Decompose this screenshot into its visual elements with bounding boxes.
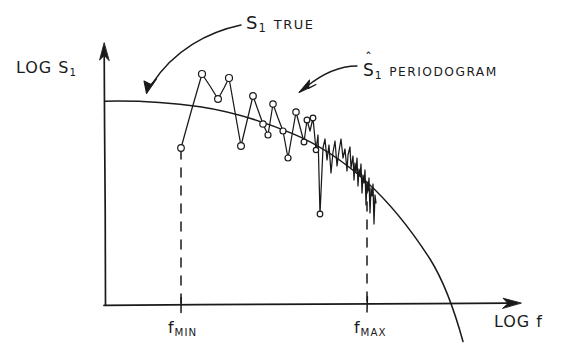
- tick-label-f-min-symbol: f: [168, 318, 175, 337]
- periodogram-marker: [199, 71, 206, 78]
- periodogram-marker: [178, 145, 185, 152]
- periodogram-marker: [238, 143, 245, 150]
- periodogram-marker: [285, 155, 291, 161]
- periodogram-annotation: ˆS1 PERIODOGRAM: [363, 60, 498, 82]
- periodogram-series: [178, 71, 376, 225]
- y-axis-label: LOG S1: [16, 58, 77, 78]
- periodogram-subscript: 1: [375, 69, 383, 82]
- true-spectrum-symbol: S: [246, 12, 259, 33]
- hand-drawn-chart-canvas: [0, 0, 574, 362]
- periodogram-marker: [215, 96, 222, 103]
- periodogram-markers: [178, 71, 323, 217]
- periodogram-marker: [226, 75, 233, 82]
- periodogram-marker: [310, 115, 316, 121]
- true-spectrum-subscript: 1: [259, 21, 267, 35]
- x-axis-label-main: LOG: [494, 312, 536, 331]
- periodogram-marker: [250, 93, 257, 100]
- y-axis-line: [104, 52, 105, 305]
- reference-lines-group: [181, 150, 367, 304]
- periodogram-marker: [265, 132, 271, 138]
- periodogram-arrow: [299, 66, 357, 93]
- tick-label-f-max-subscript: MAX: [361, 326, 387, 338]
- tick-label-f-max: fMAX: [354, 318, 387, 338]
- periodogram-marker: [270, 101, 276, 107]
- periodogram-polyline: [181, 74, 376, 224]
- periodogram-marker: [293, 109, 299, 115]
- periodogram-marker: [304, 117, 310, 123]
- periodogram-marker: [317, 211, 323, 217]
- tick-label-f-min-subscript: MIN: [175, 326, 198, 338]
- tick-label-f-min: fMIN: [168, 318, 197, 338]
- y-axis-label-main: LOG S: [16, 58, 69, 77]
- true-spectrum-arrow-head: [144, 79, 157, 94]
- periodogram-qualifier: PERIODOGRAM: [389, 65, 497, 79]
- periodogram-arrow-shaft: [306, 66, 357, 87]
- periodogram-marker: [260, 121, 266, 127]
- periodogram-marker: [280, 128, 286, 134]
- periodogram-symbol-group: ˆS: [363, 60, 375, 80]
- periodogram-hat-accent: ˆ: [365, 52, 373, 66]
- true-spectrum-qualifier: TRUE: [274, 17, 315, 32]
- periodogram-marker: [313, 147, 318, 152]
- true-spectrum-annotation: S1 TRUE: [246, 12, 315, 35]
- x-axis-label: LOG f: [494, 312, 543, 331]
- figure-root: LOG S1 LOG f S1 TRUE ˆS1 PERIODOGRAM fMI…: [0, 0, 574, 362]
- periodogram-marker: [301, 139, 307, 145]
- x-axis-label-symbol: f: [536, 312, 543, 331]
- y-axis-label-subscript: 1: [69, 66, 77, 78]
- tick-label-f-max-symbol: f: [354, 318, 361, 337]
